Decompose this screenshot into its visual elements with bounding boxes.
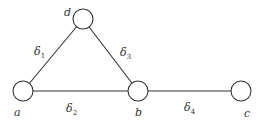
node-label-c: c bbox=[244, 107, 250, 120]
node-label-a: a bbox=[14, 106, 21, 119]
edge-label-e1: δ1 bbox=[34, 45, 45, 60]
edge-label-e4: δ4 bbox=[184, 101, 196, 116]
node-d bbox=[73, 9, 93, 29]
edge-label-e2: δ2 bbox=[66, 102, 77, 117]
node-b bbox=[128, 81, 148, 101]
edge-label-e3: δ3 bbox=[120, 46, 131, 61]
graph-diagram: δ1δ2δ3δ4 abcd bbox=[0, 0, 269, 123]
node-label-d: d bbox=[64, 6, 71, 19]
node-c bbox=[231, 81, 251, 101]
node-a bbox=[13, 81, 33, 101]
node-label-b: b bbox=[135, 106, 142, 119]
edge-a-d bbox=[23, 19, 83, 91]
edges: δ1δ2δ3δ4 bbox=[23, 19, 241, 117]
nodes: abcd bbox=[13, 6, 251, 120]
